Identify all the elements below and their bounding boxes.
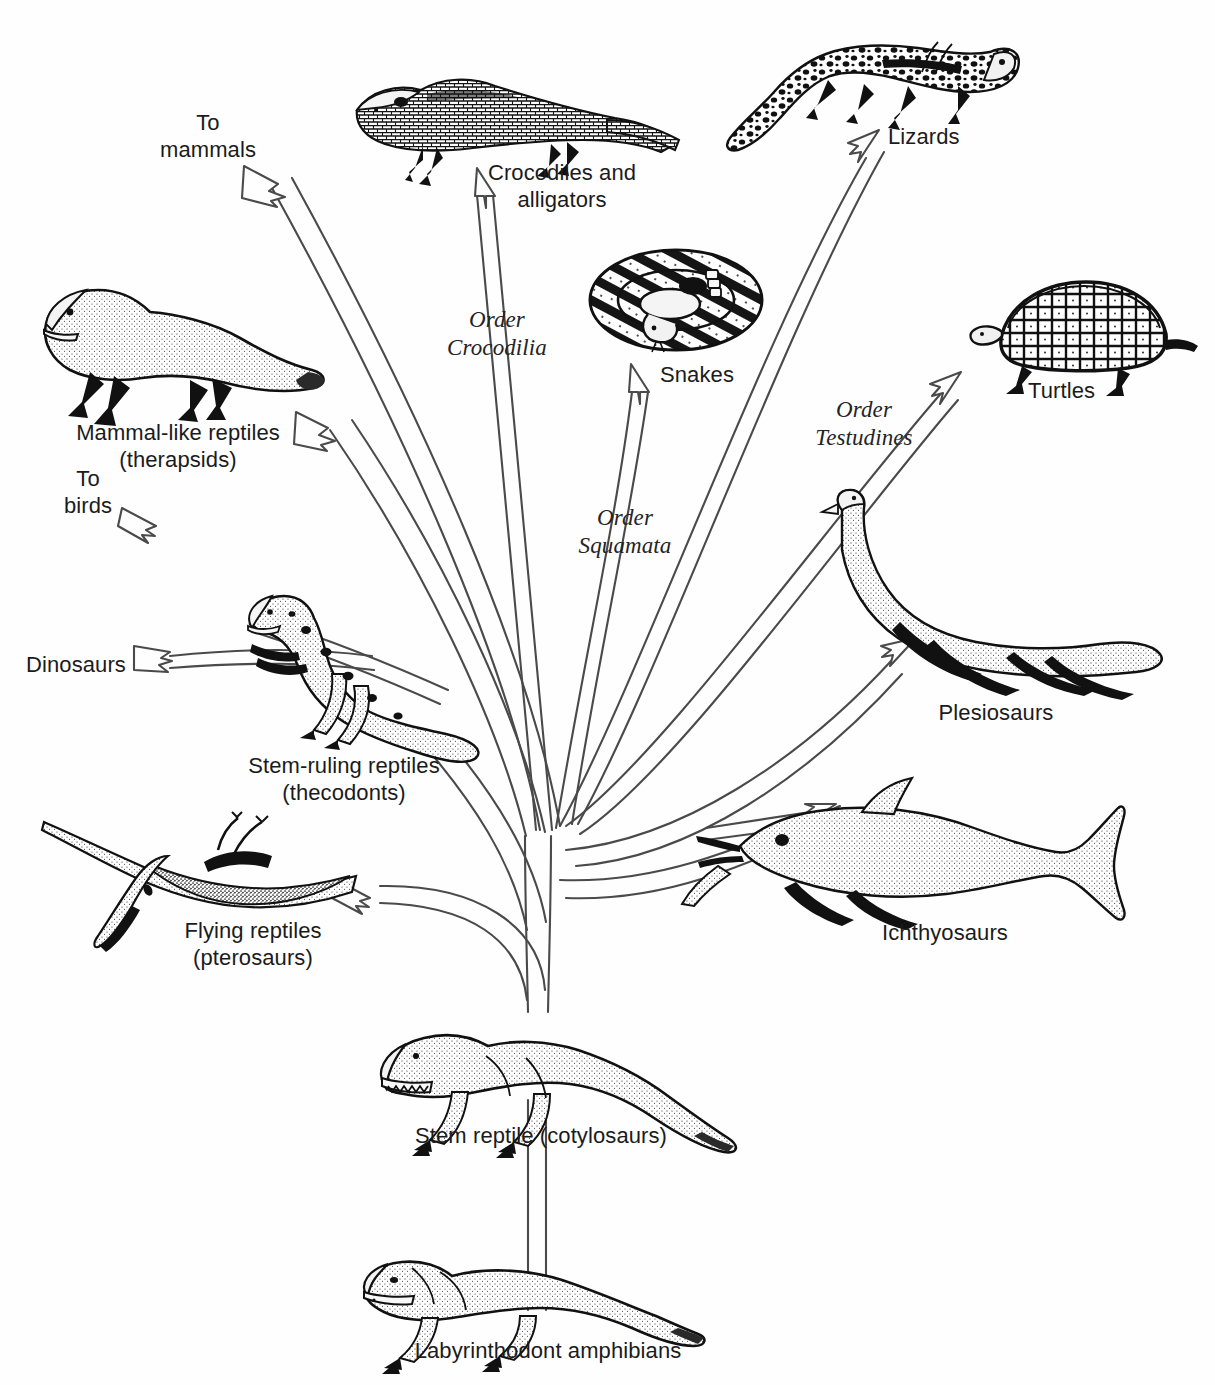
label-turtles: Turtles xyxy=(1028,378,1095,405)
label-dinosaurs: Dinosaurs xyxy=(26,652,126,679)
label-order-squamata: Order Squamata xyxy=(579,504,672,560)
label-to-birds: To birds xyxy=(64,466,112,520)
therapsid-illustration xyxy=(44,290,324,426)
plesiosaur-illustration xyxy=(822,490,1162,700)
label-snakes: Snakes xyxy=(660,362,734,389)
label-order-crocodilia: Order Crocodilia xyxy=(447,306,547,362)
label-labyrinthodont-amphibians: Labyrinthodont amphibians xyxy=(415,1338,682,1365)
label-stem-ruling-reptiles: Stem-ruling reptiles (thecodonts) xyxy=(248,753,440,807)
ichthyosaur-illustration xyxy=(682,778,1125,930)
thecodont-illustration xyxy=(248,596,478,762)
label-to-mammals: To mammals xyxy=(160,110,256,164)
label-lizards: Lizards xyxy=(888,124,960,151)
label-crocodiles-and-alligators: Crocodiles and alligators xyxy=(488,160,636,214)
label-plesiosaurs: Plesiosaurs xyxy=(939,700,1054,727)
label-stem-reptile: Stem reptile (cotylosaurs) xyxy=(415,1123,667,1150)
snake-illustration xyxy=(590,250,762,352)
evolutionary-tree-diagram: To mammals Crocodiles and alligators Liz… xyxy=(0,0,1215,1385)
label-order-testudines: Order Testudines xyxy=(815,396,912,452)
label-flying-reptiles: Flying reptiles (pterosaurs) xyxy=(184,918,321,972)
label-ichthyosaurs: Ichthyosaurs xyxy=(882,920,1008,947)
